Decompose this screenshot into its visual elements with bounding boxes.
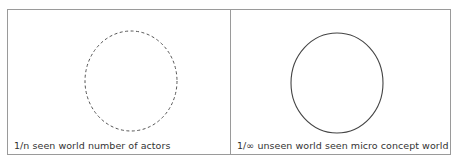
solid-circle-icon (231, 10, 450, 154)
panel-unseen-world: 1/∞ unseen world seen micro concept worl… (231, 10, 450, 154)
caption-unseen-world: 1/∞ unseen world seen micro concept worl… (237, 140, 449, 151)
dashed-circle-icon (8, 10, 230, 154)
caption-seen-world: 1/n seen world number of actors (14, 140, 170, 151)
panel-seen-world: 1/n seen world number of actors (8, 10, 231, 154)
diagram-frame: 1/n seen world number of actors 1/∞ unse… (7, 9, 451, 155)
